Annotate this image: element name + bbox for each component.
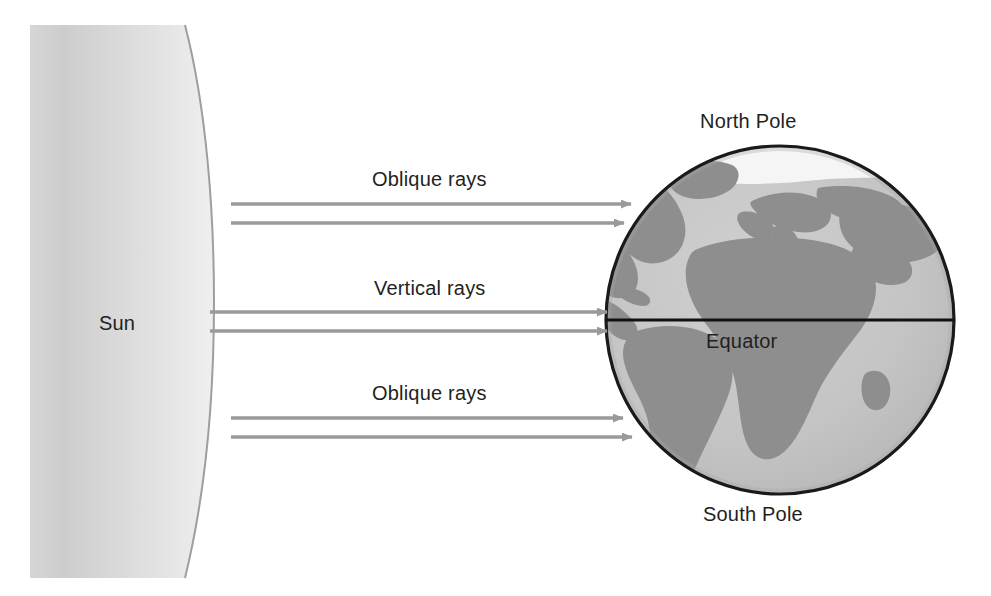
ray-group-vertical	[210, 312, 607, 331]
equator-label: Equator	[706, 330, 777, 353]
ray-group-oblique-bottom	[231, 418, 632, 437]
sun-label: Sun	[42, 312, 192, 335]
oblique-rays-top-label: Oblique rays	[372, 168, 487, 191]
ray-group-oblique-top	[231, 204, 631, 223]
solar-rays-diagram	[0, 0, 991, 596]
diagram-canvas: Sun Oblique rays Vertical rays Oblique r…	[0, 0, 991, 596]
oblique-rays-bottom-label: Oblique rays	[372, 382, 487, 405]
north-pole-label: North Pole	[700, 110, 797, 133]
south-pole-label: South Pole	[703, 503, 803, 526]
sun-body	[30, 25, 214, 578]
vertical-rays-label: Vertical rays	[374, 277, 486, 300]
